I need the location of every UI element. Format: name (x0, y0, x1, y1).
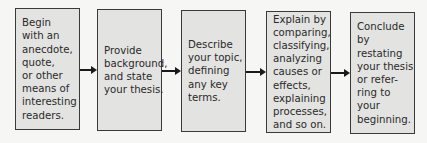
step-4-text: Explain by comparing, classifying, analy… (273, 13, 331, 132)
arrow-right-icon (80, 69, 95, 71)
step-3-box: Describe your topic, defining any key te… (181, 10, 246, 132)
arrow-right-icon (162, 70, 179, 72)
arrow-right-icon (246, 71, 264, 73)
step-4-box: Explain by comparing, classifying, analy… (266, 11, 331, 133)
step-1-box: Begin with an anecdote, quote, or other … (15, 8, 80, 130)
step-3-text: Describe your topic, defining any key te… (188, 38, 243, 104)
step-2-box: Provide background, and state your thesi… (97, 9, 162, 131)
step-5-text: Conclude by restating your thesis or ref… (357, 20, 414, 126)
step-1-text: Begin with an anecdote, quote, or other … (22, 16, 77, 122)
step-5-box: Conclude by restating your thesis or ref… (350, 12, 415, 134)
arrow-right-icon (331, 72, 348, 74)
step-2-text: Provide background, and state your thesi… (104, 44, 168, 97)
